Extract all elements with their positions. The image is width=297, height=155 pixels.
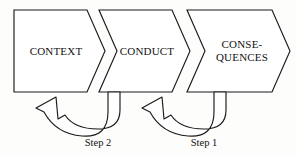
feedback-arrow-step-2[interactable]: Step 2: [36, 92, 120, 148]
step-2-label: Step 2: [85, 137, 112, 148]
step-1-label: Step 1: [191, 137, 218, 148]
stage-shape-context[interactable]: CONTEXT: [14, 10, 105, 92]
feedback-arrow-step-1[interactable]: Step 1: [142, 92, 226, 148]
diagram-figure: CONTEXT CONDUCT CONSE- QUENCES Step 2 St…: [0, 0, 297, 155]
stage-label-context: CONTEXT: [30, 45, 83, 57]
stage-shape-consequences[interactable]: CONSE- QUENCES: [187, 10, 290, 92]
diagram-canvas: CONTEXT CONDUCT CONSE- QUENCES Step 2 St…: [0, 0, 297, 155]
stage-label-conduct: CONDUCT: [120, 45, 175, 57]
step-2-curved-arrow-outline: [36, 92, 120, 136]
step-1-curved-arrow-outline: [142, 92, 226, 136]
stage-label-consequences-line1: CONSE-: [222, 38, 263, 50]
stage-label-consequences-line2: QUENCES: [216, 51, 268, 63]
stage-shape-conduct[interactable]: CONDUCT: [99, 10, 190, 92]
